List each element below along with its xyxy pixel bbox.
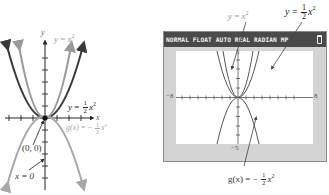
calc-label-y-x2: y = x2 [228, 10, 249, 21]
frac-den: 2 [261, 180, 267, 187]
xmin-label: −8 [166, 92, 173, 100]
label-exp: 2 [313, 5, 316, 11]
label-lhs: y [54, 34, 58, 44]
fraction-half: 12 [261, 172, 267, 187]
label-lhs: y [285, 6, 289, 17]
vertex-point [42, 115, 47, 120]
calc-label-y-half-x2: y = 12x2 [285, 4, 316, 21]
y-axis-label: y [41, 29, 45, 37]
calculator-graph [176, 51, 313, 144]
fraction-half: 12 [95, 122, 100, 135]
label-exp: 2 [246, 10, 249, 16]
frac-den: 2 [83, 108, 89, 115]
label-lhs: y [68, 102, 72, 112]
label-exp: 2 [271, 173, 274, 179]
calculator-plot-area [176, 51, 313, 144]
label-y-x2: y = x2 [54, 33, 75, 44]
ymax-label: 5 [236, 48, 240, 56]
frac-den: 2 [301, 13, 307, 21]
battery-icon [317, 35, 322, 44]
fraction-half: 12 [301, 4, 307, 21]
x-axis-label: x [96, 114, 100, 122]
label-exp: 2 [93, 101, 96, 107]
label-eq: = [74, 102, 79, 112]
label-y-half-x2: y = 12x2 [68, 100, 96, 115]
label-eq: = − [81, 123, 92, 132]
calculator-screen: NORMAL FLOAT AUTO REAL RADIAN MP −8 8 [163, 31, 327, 162]
status-bar-text: NORMAL FLOAT AUTO REAL RADIAN MP [166, 36, 288, 43]
label-lhs: g(x) [228, 174, 243, 184]
vertex-pointer [33, 122, 43, 145]
left-graph-plot [0, 0, 165, 195]
frac-num: 1 [95, 122, 100, 129]
frac-den: 2 [95, 129, 100, 135]
calc-label-g-neg-half-x2: g(x) = − 12x2 [228, 172, 274, 187]
axis-pointer [29, 160, 43, 170]
vertex-label: (0, 0) [22, 144, 42, 153]
label-eq: = − [245, 174, 257, 184]
label-exp: 2 [104, 123, 107, 128]
label-exp: 2 [72, 33, 75, 39]
fraction-half: 12 [83, 100, 89, 115]
label-eq: = [292, 6, 298, 17]
ymin-label: −5 [231, 144, 238, 152]
label-g-neg-half-x2: g(x) = − 12x2 [66, 122, 107, 135]
label-eq: = [60, 34, 65, 44]
label-lhs: y [228, 11, 232, 21]
label-eq: = [234, 11, 239, 21]
status-bar: NORMAL FLOAT AUTO REAL RADIAN MP [164, 32, 326, 47]
label-lhs: g(x) [66, 123, 79, 132]
xmax-label: 8 [314, 92, 318, 100]
axis-of-symmetry-label: x = 0 [15, 172, 34, 181]
